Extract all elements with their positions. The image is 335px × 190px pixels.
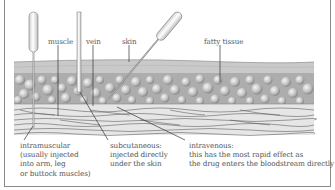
fat-layer xyxy=(14,73,314,105)
label-muscle: muscle xyxy=(48,37,73,46)
label-skin: skin xyxy=(122,37,137,46)
caption-intravenous: intravenous: this has the most rapid eff… xyxy=(189,141,334,169)
subcutaneous-syringe xyxy=(77,12,81,92)
label-vein: vein xyxy=(86,37,101,46)
label-fatty-tissue: fatty tissue xyxy=(204,37,243,46)
caption-intramuscular: intramuscular (usually injected into arm… xyxy=(20,141,91,178)
caption-subcutaneous: subcutaneous: injected directly under th… xyxy=(110,141,168,169)
